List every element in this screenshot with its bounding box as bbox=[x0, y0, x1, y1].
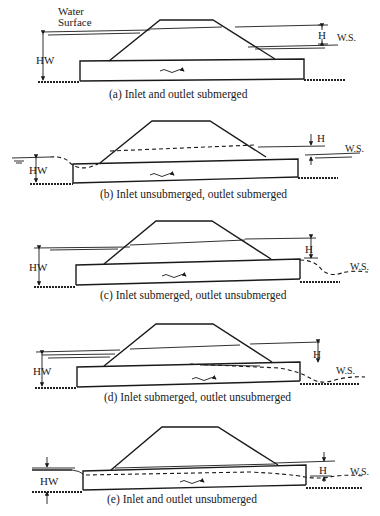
h-label: H bbox=[305, 243, 313, 255]
caption-e: (e) Inlet and outlet unsubmerged bbox=[107, 493, 257, 506]
headwater-surface bbox=[42, 30, 150, 32]
embankment bbox=[104, 324, 272, 366]
headwater-surface bbox=[12, 157, 50, 158]
flow-arrow-icon bbox=[150, 174, 174, 177]
flow-arrow-icon bbox=[192, 378, 216, 381]
drawdown-profile bbox=[50, 157, 98, 168]
panel-a: Water Surface HW H W.S. (a) Inlet and ou… bbox=[36, 5, 356, 101]
energy-line bbox=[250, 342, 320, 344]
ws-label: W.S. bbox=[350, 466, 369, 477]
panel-d: HW H W.S. (d) Inlet submerged, outlet un… bbox=[33, 324, 365, 404]
panel-b: HW H W.S. (b) Inlet unsubmerged, outlet … bbox=[12, 121, 364, 201]
hydraulic-grade-line bbox=[110, 145, 255, 151]
embankment bbox=[100, 121, 266, 163]
hw-label: HW bbox=[36, 54, 55, 66]
ws-label: W.S. bbox=[345, 143, 364, 154]
caption-c: (c) Inlet submerged, outlet unsubmerged bbox=[100, 289, 287, 302]
panel-e: HW H W.S. (e) Inlet and outlet unsubmerg… bbox=[32, 427, 369, 506]
h-label: H bbox=[318, 29, 326, 41]
svg-text:Surface: Surface bbox=[58, 16, 92, 28]
hw-label: HW bbox=[29, 261, 48, 273]
hw-label: HW bbox=[29, 164, 48, 176]
culvert-barrel bbox=[77, 362, 300, 387]
h-label: H bbox=[317, 132, 325, 144]
culvert-flow-diagram: Water Surface HW H W.S. (a) Inlet and ou… bbox=[0, 0, 380, 516]
culvert-barrel bbox=[76, 259, 300, 285]
ws-label: W.S. bbox=[336, 365, 355, 376]
hw-label: HW bbox=[33, 365, 52, 377]
flow-arrow-icon bbox=[162, 275, 186, 278]
h-label: H bbox=[313, 348, 321, 360]
h-label: H bbox=[319, 464, 327, 476]
energy-line bbox=[245, 238, 316, 239]
flow-arrow-icon bbox=[180, 481, 204, 484]
ws-label: W.S. bbox=[337, 32, 356, 43]
flow-arrow-icon bbox=[160, 70, 184, 73]
energy-line bbox=[275, 461, 335, 463]
headwater-surface bbox=[36, 350, 120, 352]
embankment bbox=[111, 427, 278, 470]
panel-c: HW H W.S. (c) Inlet submerged, outlet un… bbox=[29, 221, 369, 302]
tailwater-surface bbox=[248, 45, 338, 47]
caption-b: (b) Inlet unsubmerged, outlet submerged bbox=[100, 188, 287, 201]
caption-d: (d) Inlet submerged, outlet unsubmerged bbox=[104, 391, 291, 404]
embankment bbox=[109, 20, 275, 61]
headwater-surface bbox=[34, 247, 130, 248]
hw-label: HW bbox=[40, 475, 59, 487]
energy-line bbox=[235, 25, 322, 27]
culvert-barrel bbox=[80, 59, 304, 81]
ws-label: W.S. bbox=[350, 261, 369, 272]
caption-a: (a) Inlet and outlet submerged bbox=[109, 88, 248, 101]
